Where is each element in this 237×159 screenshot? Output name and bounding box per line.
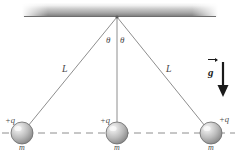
angle-label-left: θ	[106, 36, 110, 45]
string-left	[28, 17, 117, 126]
pendulum-strings	[28, 17, 205, 126]
ceiling-support-bar	[22, 3, 218, 17]
bob-right	[200, 122, 222, 144]
charge-label-right: +q	[219, 115, 229, 124]
string-length-label-left: L	[62, 64, 68, 74]
physics-diagram-canvas: θ θ L L +q m +q m +q m g	[0, 0, 237, 159]
angle-label-right: θ	[120, 36, 124, 45]
gravity-arrow-icon	[218, 62, 229, 97]
string-length-label-right: L	[166, 64, 172, 74]
vector-overbar-arrow-icon	[208, 59, 217, 60]
bob-middle	[106, 122, 128, 144]
mass-label-left: m	[19, 144, 25, 152]
mass-label-middle: m	[114, 144, 120, 152]
gravity-label-group: g	[208, 62, 214, 80]
charge-label-middle: +q	[100, 116, 110, 125]
string-right	[117, 17, 205, 126]
pivot-point	[115, 15, 118, 18]
diagram-vector-layer	[0, 0, 237, 159]
bob-left	[11, 122, 33, 144]
gravity-label: g	[208, 66, 214, 78]
mass-label-right: m	[208, 144, 214, 152]
charge-label-left: +q	[5, 116, 15, 125]
